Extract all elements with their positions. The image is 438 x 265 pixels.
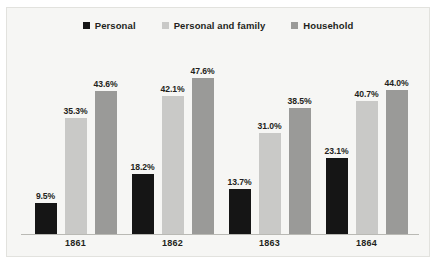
bar[interactable] xyxy=(259,133,281,234)
chart-container: Personal Personal and family Household 9… xyxy=(6,7,430,257)
bar-value-label: 44.0% xyxy=(385,78,409,88)
bar-item[interactable]: 42.1% xyxy=(162,41,184,234)
legend-item-personal[interactable]: Personal xyxy=(83,20,136,31)
bar[interactable] xyxy=(65,118,87,234)
bar-value-label: 31.0% xyxy=(258,121,282,131)
bar-group: 13.7%31.0%38.5% xyxy=(221,41,318,234)
bar[interactable] xyxy=(356,101,378,234)
legend-label-household: Household xyxy=(303,20,353,31)
x-axis-tick-label: 1863 xyxy=(221,238,318,248)
bar[interactable] xyxy=(35,203,57,234)
bar-item[interactable]: 18.2% xyxy=(132,41,154,234)
bar-item[interactable]: 44.0% xyxy=(386,41,408,234)
bar-value-label: 18.2% xyxy=(131,162,155,172)
chart-legend: Personal Personal and family Household xyxy=(7,20,429,31)
bar-value-label: 38.5% xyxy=(288,96,312,106)
bar[interactable] xyxy=(95,91,117,234)
x-axis-line xyxy=(21,234,419,235)
bar[interactable] xyxy=(289,108,311,234)
legend-swatch-household xyxy=(291,22,298,29)
bar-item[interactable]: 47.6% xyxy=(192,41,214,234)
x-axis-tick-label: 1862 xyxy=(124,238,221,248)
bar-value-label: 35.3% xyxy=(64,106,88,116)
bar-group: 18.2%42.1%47.6% xyxy=(124,41,221,234)
bar-value-label: 13.7% xyxy=(228,177,252,187)
legend-item-household[interactable]: Household xyxy=(291,20,353,31)
bar-value-label: 42.1% xyxy=(161,84,185,94)
bar-item[interactable]: 43.6% xyxy=(95,41,117,234)
legend-label-personal-and-family: Personal and family xyxy=(174,20,266,31)
bar-value-label: 23.1% xyxy=(325,146,349,156)
legend-swatch-personal xyxy=(83,22,90,29)
bar-value-label: 40.7% xyxy=(355,89,379,99)
x-axis-tick-label: 1861 xyxy=(27,238,124,248)
bar-value-label: 47.6% xyxy=(191,66,215,76)
bar-item[interactable]: 38.5% xyxy=(289,41,311,234)
plot-area: 9.5%35.3%43.6%18.2%42.1%47.6%13.7%31.0%3… xyxy=(27,41,415,234)
bar[interactable] xyxy=(192,78,214,234)
legend-item-personal-and-family[interactable]: Personal and family xyxy=(162,20,266,31)
bar-value-label: 43.6% xyxy=(94,79,118,89)
bar-item[interactable]: 35.3% xyxy=(65,41,87,234)
bar[interactable] xyxy=(326,158,348,234)
bar[interactable] xyxy=(386,90,408,234)
bar-item[interactable]: 23.1% xyxy=(326,41,348,234)
bar-groups: 9.5%35.3%43.6%18.2%42.1%47.6%13.7%31.0%3… xyxy=(27,41,415,234)
bar-group: 9.5%35.3%43.6% xyxy=(27,41,124,234)
bar-item[interactable]: 31.0% xyxy=(259,41,281,234)
bar[interactable] xyxy=(229,189,251,234)
bar-item[interactable]: 13.7% xyxy=(229,41,251,234)
x-axis-tick-label: 1864 xyxy=(318,238,415,248)
legend-label-personal: Personal xyxy=(95,20,136,31)
bar-group: 23.1%40.7%44.0% xyxy=(318,41,415,234)
legend-swatch-personal-and-family xyxy=(162,22,169,29)
x-axis-labels: 1861186218631864 xyxy=(27,238,415,248)
bar[interactable] xyxy=(132,174,154,234)
bar-item[interactable]: 40.7% xyxy=(356,41,378,234)
bar-item[interactable]: 9.5% xyxy=(35,41,57,234)
bar-value-label: 9.5% xyxy=(36,191,55,201)
bar[interactable] xyxy=(162,96,184,234)
